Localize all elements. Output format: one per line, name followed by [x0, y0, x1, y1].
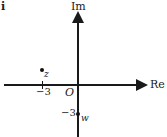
- real-axis-label: Re: [150, 79, 165, 90]
- real-axis-tick-label: −3: [36, 87, 51, 97]
- argand-diagram: i Im Re O −3 −3 z w: [0, 0, 167, 137]
- real-axis-line: [4, 84, 144, 86]
- point-w-label: w: [81, 114, 89, 123]
- point-w-marker: [76, 112, 80, 116]
- imaginary-axis-tick-label: −3: [61, 108, 76, 118]
- origin-label: O: [65, 87, 74, 98]
- imaginary-axis-line: [77, 16, 79, 137]
- imaginary-axis-label: Im: [71, 1, 86, 12]
- part-label: i: [1, 1, 5, 12]
- real-axis-arrowhead-icon: [136, 79, 148, 91]
- point-z-label: z: [44, 70, 49, 79]
